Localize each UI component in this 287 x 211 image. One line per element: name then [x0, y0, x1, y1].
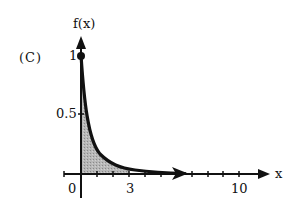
x-tick-label-3: 3: [126, 182, 134, 195]
x-axis-label: x: [275, 167, 282, 180]
x-tick-label-10: 10: [231, 182, 248, 195]
plot-svg: [0, 0, 287, 211]
y-tick-label-0-5: 0.5: [56, 107, 77, 120]
y-tick-label-1: 1: [69, 49, 77, 62]
y-axis-arrow-icon: [76, 36, 86, 49]
x-axis-arrow-icon: [258, 169, 270, 179]
start-point-dot: [77, 52, 85, 60]
x-tick-label-0: 0: [68, 182, 76, 195]
panel-label: (C): [19, 51, 42, 64]
y-axis-label: f(x): [73, 17, 95, 30]
